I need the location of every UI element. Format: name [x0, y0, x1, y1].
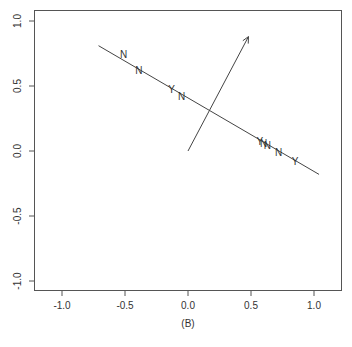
y-tick-label: 0.0	[12, 144, 23, 158]
y-axis: -1.0-0.50.00.51.0	[12, 14, 34, 290]
point-label: Y	[292, 156, 299, 167]
y-tick-label: -0.5	[12, 207, 23, 225]
x-tick-label: 1.0	[307, 300, 321, 311]
x-tick-label: -1.0	[53, 300, 71, 311]
biplot-chart: -1.0-0.50.00.51.0 -1.0-0.50.00.51.0 NNYN…	[0, 0, 352, 347]
y-tick-label: 0.5	[12, 79, 23, 93]
y-tick-label: 1.0	[12, 14, 23, 28]
point-label: N	[120, 49, 127, 60]
point-labels: NNYNYNNNY	[120, 49, 299, 168]
x-tick-label: 0.0	[181, 300, 195, 311]
x-axis: -1.0-0.50.00.51.0	[53, 291, 321, 311]
point-label: N	[264, 140, 271, 151]
x-tick-label: 0.5	[244, 300, 258, 311]
x-tick-label: -0.5	[116, 300, 134, 311]
point-label: N	[178, 91, 185, 102]
figure-caption: (B)	[181, 318, 194, 329]
point-label: N	[275, 147, 282, 158]
projection-line	[99, 46, 320, 175]
arrow-shaft	[188, 37, 248, 151]
point-label: N	[135, 65, 142, 76]
fit-line	[99, 46, 320, 175]
direction-arrow	[188, 37, 248, 151]
y-tick-label: -1.0	[12, 272, 23, 290]
point-label: Y	[168, 84, 175, 95]
